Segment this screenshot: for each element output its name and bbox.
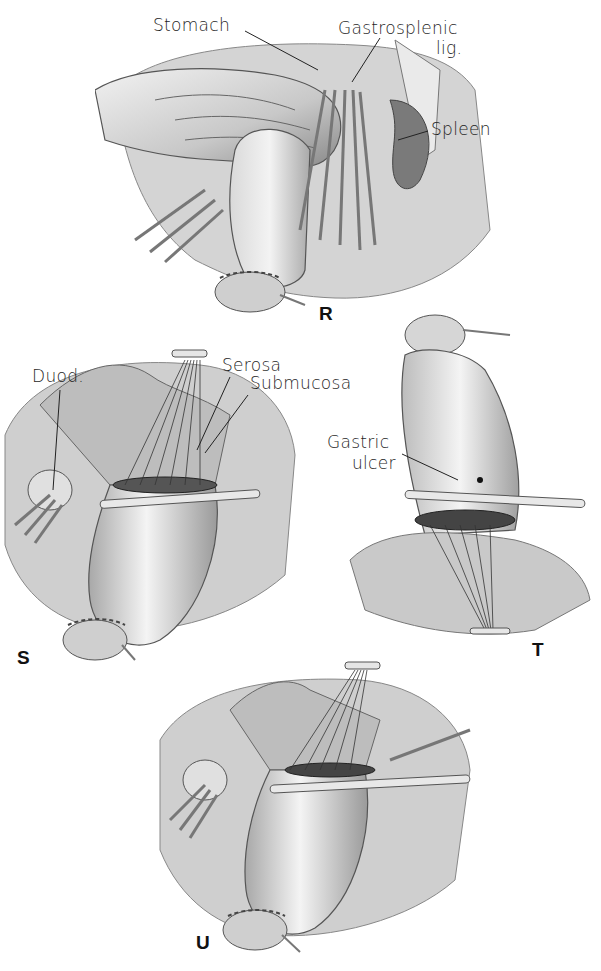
panel-label-s: S	[17, 648, 30, 667]
leader-lines-s	[0, 340, 340, 500]
panel-label-u: U	[196, 933, 210, 952]
panel-label-r: R	[319, 304, 333, 323]
panel-u-illustration	[150, 660, 480, 960]
leader-lines-r	[0, 0, 601, 160]
panel-label-t: T	[532, 640, 544, 659]
leader-line-t	[320, 420, 520, 520]
